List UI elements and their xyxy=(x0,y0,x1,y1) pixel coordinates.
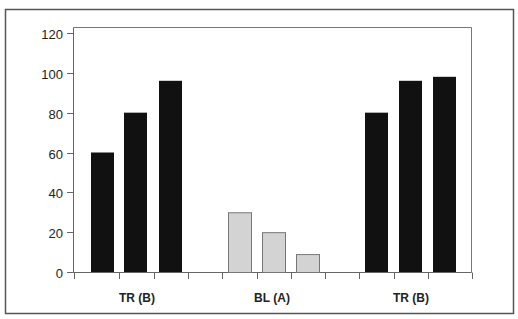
y-tick-label: 0 xyxy=(56,266,63,281)
y-tick-label: 20 xyxy=(49,226,63,241)
category-label: BL (A) xyxy=(254,291,290,305)
y-tick-label: 60 xyxy=(49,147,63,162)
bar xyxy=(399,81,422,272)
y-tick-label: 120 xyxy=(41,27,63,42)
category-label: TR (B) xyxy=(119,291,155,305)
bar xyxy=(159,81,182,272)
bar-chart: 020406080100120 TR (B)BL (A)TR (B) xyxy=(0,0,518,319)
bar xyxy=(297,255,320,273)
bar xyxy=(229,213,252,273)
bar xyxy=(91,153,114,273)
bar xyxy=(263,233,286,273)
bar xyxy=(433,77,456,272)
bar xyxy=(124,113,147,272)
y-tick-label: 100 xyxy=(41,67,63,82)
bar xyxy=(365,113,388,272)
y-tick-label: 80 xyxy=(49,107,63,122)
y-tick-label: 40 xyxy=(49,186,63,201)
category-label: TR (B) xyxy=(393,291,429,305)
